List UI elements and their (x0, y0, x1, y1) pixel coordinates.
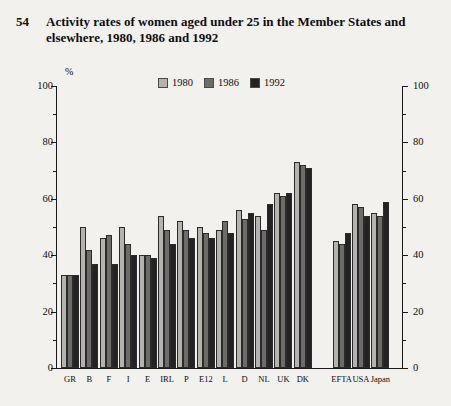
bar-B-1992 (92, 264, 98, 368)
y-tick-label-right-20: 20 (413, 307, 451, 317)
bar-UK-1992 (286, 193, 292, 368)
y-tick-label-right-80: 80 (413, 137, 451, 147)
bar-group-F (100, 86, 118, 368)
figure-number: 54 (16, 14, 46, 30)
y-tick-r-100 (402, 86, 408, 87)
x-tick-label-Japan: Japan (363, 375, 397, 384)
y-tick-r-40 (402, 255, 408, 256)
bar-group-E (139, 86, 157, 368)
y-tick-l-10 (53, 340, 57, 341)
y-tick-r-10 (402, 340, 406, 341)
bar-group-I (119, 86, 137, 368)
y-tick-label-left-100: 100 (13, 81, 53, 91)
y-tick-r-0 (402, 368, 408, 369)
bar-group-E12 (197, 86, 215, 368)
bar-group-USA (352, 86, 370, 368)
bar-group-L (216, 86, 234, 368)
bar-group-IRL (158, 86, 176, 368)
figure-panel: 54 Activity rates of women aged under 25… (0, 0, 451, 406)
bar-group-EFTA (333, 86, 351, 368)
bar-group-spacer (313, 86, 331, 368)
y-tick-label-left-40: 40 (13, 250, 53, 260)
bar-IRL-1992 (170, 244, 176, 368)
bar-F-1992 (112, 264, 118, 368)
x-axis-line (56, 368, 403, 369)
x-tick-label-DK: DK (286, 375, 320, 384)
plot-area: 002020404060608080100100GRBFIEIRLPE12LDN… (57, 86, 402, 368)
y-tick-label-left-60: 60 (13, 194, 53, 204)
bar-group-B (80, 86, 98, 368)
bar-group-UK (274, 86, 292, 368)
bar-EFTA-1992 (345, 233, 351, 368)
bar-Japan-1992 (383, 202, 389, 368)
bar-NL-1992 (267, 204, 273, 368)
y-tick-l-50 (53, 227, 57, 228)
y-tick-l-70 (53, 171, 57, 172)
y-tick-l-30 (53, 283, 57, 284)
bar-group-NL (255, 86, 273, 368)
y-tick-label-left-0: 0 (13, 363, 53, 373)
y-tick-r-80 (402, 142, 408, 143)
bar-group-GR (61, 86, 79, 368)
bar-E-1992 (151, 258, 157, 368)
bar-group-DK (294, 86, 312, 368)
bar-group-Japan (371, 86, 389, 368)
y-axis-unit-label: % (65, 66, 73, 77)
y-tick-r-20 (402, 312, 408, 313)
bar-USA-1992 (364, 216, 370, 368)
bar-L-1992 (228, 233, 234, 368)
bar-P-1992 (189, 238, 195, 368)
y-tick-r-60 (402, 199, 408, 200)
bar-E12-1992 (209, 238, 215, 368)
bar-D-1992 (248, 213, 254, 368)
page-title: Activity rates of women aged under 25 in… (46, 14, 416, 46)
y-tick-r-30 (402, 283, 406, 284)
y-tick-r-90 (402, 114, 406, 115)
bar-DK-1992 (306, 168, 312, 368)
bar-group-P (177, 86, 195, 368)
y-tick-label-left-20: 20 (13, 307, 53, 317)
bar-GR-1992 (73, 275, 79, 368)
y-tick-l-90 (53, 114, 57, 115)
y-tick-r-50 (402, 227, 406, 228)
y-tick-label-right-0: 0 (413, 363, 451, 373)
y-tick-label-right-100: 100 (413, 81, 451, 91)
bar-group-D (236, 86, 254, 368)
y-tick-label-right-60: 60 (413, 194, 451, 204)
figure-header: 54 Activity rates of women aged under 25… (16, 14, 436, 46)
y-tick-label-left-80: 80 (13, 137, 53, 147)
bar-I-1992 (131, 255, 137, 368)
y-tick-label-right-40: 40 (413, 250, 451, 260)
y-tick-r-70 (402, 171, 406, 172)
